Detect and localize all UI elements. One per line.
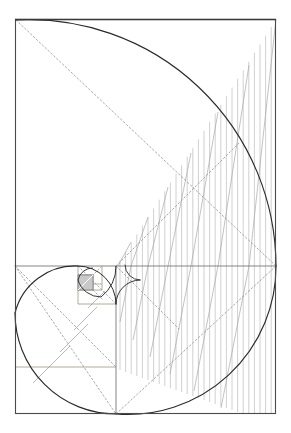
golden-ratio-diagram	[0, 0, 291, 433]
shaded-inner-cell	[78, 275, 93, 290]
golden-ratio-figure	[0, 0, 291, 433]
canvas-background	[0, 0, 291, 433]
